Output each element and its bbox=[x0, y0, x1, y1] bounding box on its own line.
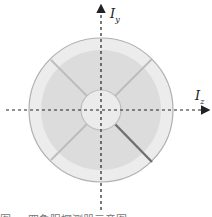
quadrant-detector-diagram bbox=[0, 0, 212, 217]
y-axis-label: Iy bbox=[110, 6, 120, 24]
z-axis-label: Iz bbox=[195, 88, 204, 106]
figure-caption: 图 ... 四象限探测器示意图 bbox=[0, 211, 212, 217]
